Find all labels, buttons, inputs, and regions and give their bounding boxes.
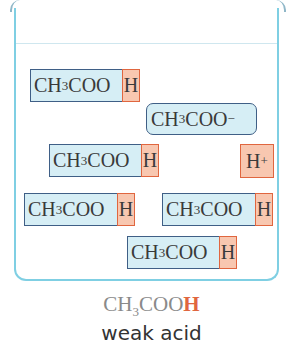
acetic-acid-molecule: CH3COO H: [127, 236, 237, 269]
hydrogen-ion: H+: [240, 144, 274, 178]
acidic-hydrogen-highlight: H: [183, 292, 199, 316]
molecule-body: CH3COO: [30, 69, 122, 102]
formula-text: COO: [87, 149, 129, 172]
formula-text: COO: [200, 198, 242, 221]
formula-text: CH: [34, 74, 62, 97]
molecule-body: CH3COO: [24, 193, 117, 226]
formula-text: COO: [165, 241, 207, 264]
formula-text: H: [246, 150, 260, 173]
acidic-hydrogen: H: [219, 236, 237, 269]
acidic-hydrogen: H: [255, 193, 273, 226]
formula-text: CH: [131, 241, 159, 264]
acetic-acid-molecule: CH3COO H: [30, 69, 140, 102]
caption-formula: CH3COOH: [0, 292, 303, 317]
acidic-hydrogen: H: [122, 69, 140, 102]
acetic-acid-molecule: CH3COO H: [162, 193, 273, 226]
acetic-acid-molecule: CH3COO H: [49, 144, 159, 177]
formula-text: CH: [151, 108, 179, 131]
formula-text: CH: [166, 198, 194, 221]
acetate-ion: CH3COO−: [146, 103, 257, 135]
acidic-hydrogen: H: [117, 193, 135, 226]
water-surface-line: [16, 43, 277, 44]
formula-text: COO: [185, 108, 227, 131]
molecule-body: CH3COO: [49, 144, 141, 177]
acidic-hydrogen: H: [141, 144, 159, 177]
formula-text: COO: [62, 198, 104, 221]
molecule-body: CH3COO: [127, 236, 219, 269]
formula-text: COO: [68, 74, 110, 97]
acetic-acid-molecule: CH3COO H: [24, 193, 135, 226]
formula-text: CH: [53, 149, 81, 172]
formula-text: CH: [28, 198, 56, 221]
molecule-body: CH3COO: [162, 193, 255, 226]
caption-label: weak acid: [0, 321, 303, 345]
formula-text: COO: [139, 292, 183, 316]
formula-text: CH: [103, 292, 132, 316]
